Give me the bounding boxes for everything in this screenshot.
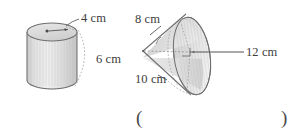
answer-blank-open-paren: ( [136,108,142,127]
cylinder-radius-leader [66,19,79,26]
cylinder-radius-label: 4 cm [81,12,106,25]
cone-slant-height-label: 8 cm [135,13,160,26]
cone-base-edge-label: 10 cm [135,73,166,86]
cylinder-top-ellipse [27,23,77,41]
cylinder-shape [27,19,85,89]
cone-diameter-label: 12 cm [246,46,277,59]
cone-apex-point [142,50,144,52]
cone-slant-leader [150,26,161,35]
answer-blank-close-paren: ) [281,108,287,127]
cylinder-center-point [46,30,49,33]
cylinder-height-label: 6 cm [96,53,121,66]
geometry-figure-canvas: 4 cm 6 cm 8 cm 12 cm 10 cm ( ) [0,0,299,138]
